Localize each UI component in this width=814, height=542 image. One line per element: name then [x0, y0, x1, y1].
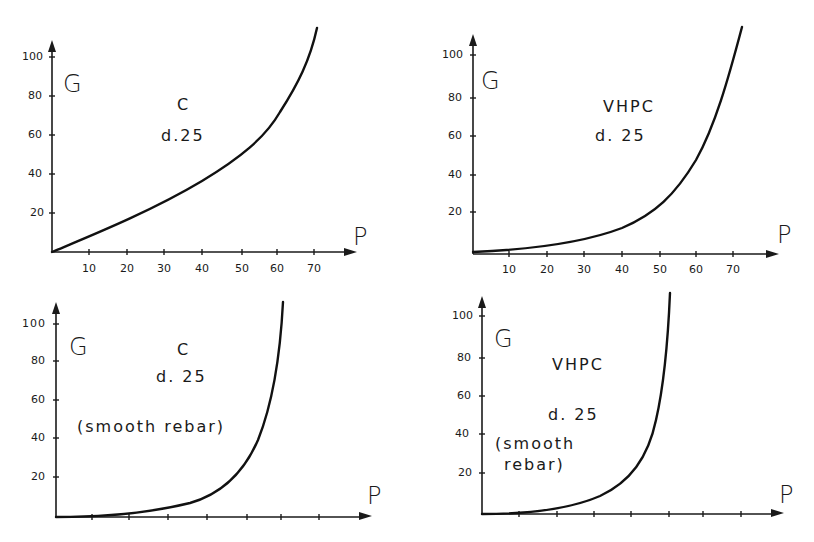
y-tick-label: 80 [457, 351, 471, 364]
x-axis-label: P [367, 482, 381, 510]
y-tick-label: 60 [448, 129, 462, 142]
material-label: C [177, 340, 190, 359]
material-label: C [177, 95, 190, 114]
note-label: (smooth rebar) [77, 417, 225, 436]
y-tick-label: 60 [28, 128, 42, 141]
y-tick-label: 40 [448, 168, 462, 181]
x-axis-label: P [779, 481, 793, 509]
note-label-line2: rebar) [504, 455, 565, 474]
y-tick-label: 80 [28, 89, 42, 102]
y-tick-label: 100 [22, 50, 43, 63]
y-tick-label: 60 [457, 389, 471, 402]
y-tick-label: 60 [31, 393, 45, 406]
y-tick-label: 100 [22, 317, 46, 330]
note-label-line1: (smooth [495, 434, 575, 453]
x-tick-label: 70 [307, 262, 321, 275]
diameter-label: d.25 [161, 126, 205, 145]
y-tick-label: 20 [31, 470, 45, 483]
x-axis-arrow-icon [359, 512, 372, 520]
x-tick-label: 40 [615, 263, 629, 276]
material-label: VHPC [552, 355, 604, 374]
y-axis-arrow-icon [469, 34, 477, 46]
y-tick-label: 40 [31, 431, 45, 444]
y-tick-label: 40 [455, 427, 469, 440]
chart-bottom-right: 100 80 60 40 20 G P VHPC d. 25 (smooth r… [452, 293, 793, 517]
x-tick-label: 40 [195, 262, 209, 275]
x-tick-label: 70 [726, 263, 740, 276]
y-tick-label: 100 [442, 48, 463, 61]
x-tick-label: 20 [120, 262, 134, 275]
x-tick-label: 10 [502, 263, 516, 276]
figure-four-panel-g-vs-p: 100 80 60 40 20 10 20 30 40 50 60 70 G P… [0, 0, 814, 542]
chart-top-right: 100 80 60 40 20 10 20 30 40 50 60 70 G P… [442, 27, 791, 276]
y-tick-label: 20 [458, 466, 472, 479]
x-tick-label: 10 [82, 262, 96, 275]
y-axis-label: G [481, 67, 500, 95]
x-axis-arrow-icon [771, 509, 784, 517]
y-tick-label: 100 [452, 309, 473, 322]
chart-bottom-left: 100 80 60 40 20 G P C d. 25 (smooth reba… [22, 302, 381, 520]
y-axis-arrow-icon [52, 302, 60, 314]
y-axis-label: G [494, 325, 513, 353]
x-axis-arrow-icon [766, 250, 779, 258]
x-tick-label: 60 [689, 263, 703, 276]
y-axis-label: G [63, 70, 82, 98]
x-tick-label: 50 [235, 262, 249, 275]
y-axis-arrow-icon [478, 296, 486, 308]
x-axis-label: P [777, 221, 791, 249]
y-axis-arrow-icon [48, 40, 56, 52]
y-tick-label: 80 [31, 354, 45, 367]
y-tick-label: 20 [30, 206, 44, 219]
curve-c-d25-smooth-rebar [56, 302, 283, 517]
x-tick-label: 20 [540, 263, 554, 276]
diameter-label: d. 25 [548, 405, 599, 424]
x-tick-label: 60 [270, 262, 284, 275]
x-axis-label: P [353, 223, 367, 251]
x-tick-label: 50 [653, 263, 667, 276]
x-tick-label: 30 [157, 262, 171, 275]
y-tick-label: 80 [448, 91, 462, 104]
y-tick-label: 40 [28, 167, 42, 180]
material-label: VHPC [603, 97, 655, 116]
y-tick-label: 20 [448, 205, 462, 218]
diameter-label: d. 25 [595, 126, 646, 145]
x-tick-label: 30 [577, 263, 591, 276]
diameter-label: d. 25 [156, 367, 207, 386]
chart-top-left: 100 80 60 40 20 10 20 30 40 50 60 70 G P… [22, 28, 367, 275]
y-axis-label: G [69, 333, 88, 361]
